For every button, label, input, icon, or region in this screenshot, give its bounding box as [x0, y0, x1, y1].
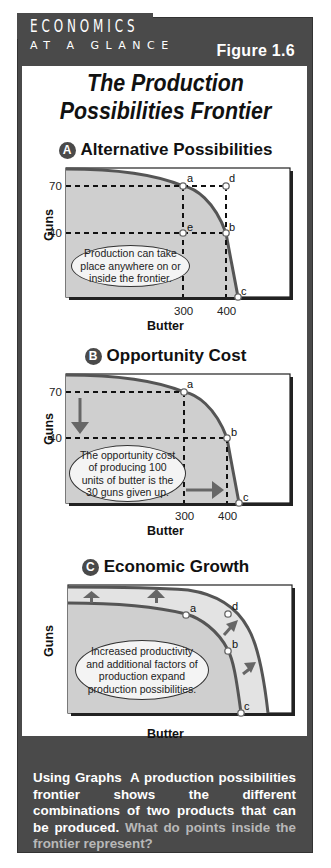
svg-text:d: d — [229, 172, 235, 184]
caption-lead: Using Graphs — [33, 770, 122, 785]
svg-text:300: 300 — [174, 305, 193, 317]
chart-b-y-title: Guns — [42, 413, 56, 445]
svg-text:a: a — [187, 172, 194, 184]
svg-text:a: a — [190, 602, 197, 614]
svg-text:c: c — [243, 491, 249, 503]
svg-text:c: c — [244, 700, 250, 712]
caption: Using Graphs A production possibilities … — [33, 770, 296, 853]
chart-a-x-title: Butter — [0, 319, 331, 333]
chart-b-callout: The opportunity cost of producing 100 un… — [69, 445, 186, 502]
svg-text:b: b — [232, 638, 238, 650]
svg-text:70: 70 — [49, 386, 62, 398]
chart-b-x-title: Butter — [0, 524, 331, 538]
chart-c-x-title: Butter — [0, 727, 331, 741]
svg-text:300: 300 — [175, 510, 194, 522]
svg-text:d: d — [232, 600, 238, 612]
chart-a-callout: Production can take place anywhere on or… — [71, 245, 190, 287]
svg-text:a: a — [187, 378, 194, 390]
svg-text:c: c — [241, 285, 247, 297]
svg-text:70: 70 — [49, 180, 62, 192]
svg-text:e: e — [187, 221, 193, 233]
svg-text:b: b — [229, 221, 235, 233]
svg-text:400: 400 — [218, 510, 237, 522]
chart-c-callout: Increased productivity and additional fa… — [75, 640, 209, 700]
chart-c-y-title: Guns — [42, 625, 56, 657]
svg-text:400: 400 — [217, 305, 236, 317]
svg-text:b: b — [231, 426, 237, 438]
chart-a-y-title: Guns — [42, 209, 56, 241]
chart-a: a d e b c 70 40 300 400 — [49, 168, 293, 317]
